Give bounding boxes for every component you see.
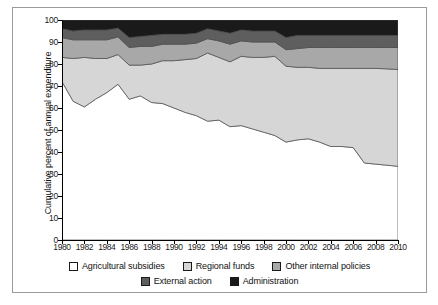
x-tick-mark — [107, 240, 108, 244]
x-tick-label: 2002 — [300, 243, 317, 252]
x-tick-label: 1984 — [98, 243, 115, 252]
x-tick-mark — [196, 240, 197, 244]
y-tick-label: 40 — [2, 148, 58, 157]
legend-swatch-icon — [141, 277, 150, 286]
x-tick-mark — [376, 240, 377, 244]
stacked-area-chart — [62, 20, 398, 240]
y-tick-label: 100 — [2, 16, 58, 25]
legend-item[interactable]: Other internal policies — [272, 262, 370, 271]
x-tick-label: 1992 — [188, 243, 205, 252]
x-tick-mark — [219, 240, 220, 244]
legend-item[interactable]: Agricultural subsidies — [69, 262, 165, 271]
x-tick-mark — [308, 240, 309, 244]
x-tick-mark — [353, 240, 354, 244]
figure-container: Cumulative percent of annual expenditure… — [0, 0, 438, 305]
legend-row: External actionAdministration — [12, 274, 427, 289]
legend-item[interactable]: Regional funds — [183, 262, 255, 271]
x-tick-label: 2006 — [345, 243, 362, 252]
legend-row: Agricultural subsidiesRegional fundsOthe… — [12, 259, 427, 274]
x-tick-label: 1998 — [255, 243, 272, 252]
x-tick-mark — [264, 240, 265, 244]
x-tick-mark — [84, 240, 85, 244]
x-tick-label: 1982 — [76, 243, 93, 252]
x-tick-label: 2008 — [367, 243, 384, 252]
x-tick-label: 1980 — [53, 243, 70, 252]
x-tick-mark — [62, 240, 63, 244]
x-tick-label: 2000 — [277, 243, 294, 252]
chart-legend: Agricultural subsidiesRegional fundsOthe… — [12, 259, 427, 291]
x-axis-line — [62, 240, 399, 241]
legend-swatch-icon — [183, 262, 192, 271]
x-tick-label: 1986 — [121, 243, 138, 252]
y-tick-label: 20 — [2, 192, 58, 201]
legend-swatch-icon — [230, 277, 239, 286]
plot-area — [62, 20, 398, 240]
legend-swatch-icon — [272, 262, 281, 271]
x-tick-mark — [398, 240, 399, 244]
y-axis-line — [62, 20, 63, 241]
legend-label: Other internal policies — [285, 262, 370, 271]
legend-label: Regional funds — [196, 262, 255, 271]
x-tick-mark — [152, 240, 153, 244]
x-tick-label: 2004 — [322, 243, 339, 252]
x-tick-label: 1996 — [233, 243, 250, 252]
legend-label: Agricultural subsidies — [82, 262, 165, 271]
x-tick-mark — [286, 240, 287, 244]
y-tick-label: 50 — [2, 126, 58, 135]
y-tick-label: 10 — [2, 214, 58, 223]
y-tick-label: 80 — [2, 60, 58, 69]
x-tick-mark — [241, 240, 242, 244]
x-tick-label: 2010 — [389, 243, 406, 252]
x-axis-labels: 1980198219841986198819901992199419961998… — [40, 243, 430, 257]
x-tick-mark — [174, 240, 175, 244]
y-tick-label: 90 — [2, 38, 58, 47]
legend-label: Administration — [243, 277, 299, 286]
legend-item[interactable]: External action — [141, 277, 212, 286]
y-tick-label: 70 — [2, 82, 58, 91]
x-tick-label: 1990 — [165, 243, 182, 252]
legend-item[interactable]: Administration — [230, 277, 299, 286]
y-tick-label: 60 — [2, 104, 58, 113]
x-tick-label: 1988 — [143, 243, 160, 252]
legend-label: External action — [154, 277, 212, 286]
y-tick-label: 30 — [2, 170, 58, 179]
legend-swatch-icon — [69, 262, 78, 271]
x-tick-label: 1994 — [210, 243, 227, 252]
x-tick-mark — [129, 240, 130, 244]
x-tick-mark — [331, 240, 332, 244]
